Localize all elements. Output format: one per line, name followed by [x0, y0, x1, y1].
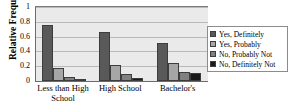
- bar: [132, 78, 143, 81]
- legend-label: No, Probably Not: [219, 50, 272, 59]
- legend-item[interactable]: Yes, Probably: [210, 39, 285, 49]
- y-axis-tick-labels: 00.20.40.60.81: [14, 0, 32, 88]
- bar-group: [99, 7, 143, 81]
- y-axis-tick-label: 0.8: [20, 18, 30, 26]
- legend-label: No, Definitely Not: [219, 60, 275, 69]
- legend-label: Yes, Definitely: [219, 30, 264, 39]
- legend-swatch-icon: [210, 61, 216, 67]
- plot-area: [35, 7, 208, 82]
- y-axis-tick-label: 0.6: [20, 33, 30, 41]
- legend-label: Yes, Probably: [219, 40, 261, 49]
- bar: [64, 77, 75, 81]
- x-axis-tick-label: Less than High School: [30, 83, 96, 103]
- y-axis-tick-label: 1: [26, 3, 30, 11]
- bar: [121, 74, 132, 81]
- y-axis-tick-label: 0.2: [20, 62, 30, 70]
- legend-swatch-icon: [210, 51, 216, 57]
- bar: [190, 73, 201, 81]
- x-axis-tick-label: Bachelor's: [150, 83, 206, 93]
- bar-group: [42, 7, 86, 81]
- bar-chart: Relative Frequency 00.20.40.60.81 Less t…: [0, 0, 290, 105]
- bar: [99, 32, 110, 81]
- legend-swatch-icon: [210, 31, 216, 37]
- legend-item[interactable]: No, Probably Not: [210, 49, 285, 59]
- bar: [53, 68, 64, 81]
- y-axis-tick-label: 0.4: [20, 47, 30, 55]
- x-axis-tick-labels: Less than High SchoolHigh SchoolBachelor…: [35, 83, 208, 105]
- legend-item[interactable]: Yes, Definitely: [210, 29, 285, 39]
- legend: Yes, DefinitelyYes, ProbablyNo, Probably…: [207, 26, 288, 72]
- legend-item[interactable]: No, Definitely Not: [210, 59, 285, 69]
- bar: [42, 25, 53, 81]
- bar: [157, 43, 168, 81]
- chart-title: [0, 0, 290, 2]
- bar: [75, 79, 86, 81]
- bar: [179, 72, 190, 81]
- bar: [110, 65, 121, 81]
- bar-group: [157, 7, 201, 81]
- x-axis-tick-label: High School: [92, 83, 148, 93]
- legend-swatch-icon: [210, 41, 216, 47]
- bar: [168, 63, 179, 82]
